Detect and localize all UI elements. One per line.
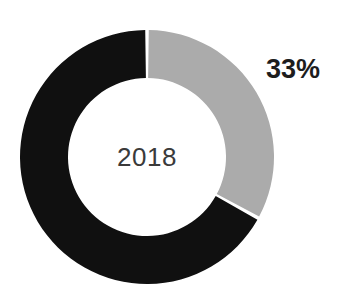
percent-value-label: 33% [266,53,320,85]
donut-slice-share[interactable] [148,30,274,217]
donut-center-label: 2018 [0,141,294,173]
donut-chart: 2018 33% [0,0,345,306]
